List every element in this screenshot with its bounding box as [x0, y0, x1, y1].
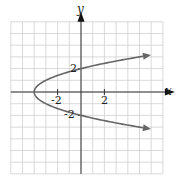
x-tick-2: 2 [101, 94, 108, 107]
y-axis-label: y [77, 2, 84, 16]
parabola-graph [0, 0, 179, 185]
grid [11, 22, 163, 174]
y-tick-2: 2 [70, 62, 77, 75]
x-tick-neg2: -2 [51, 94, 62, 107]
y-tick-neg2: -2 [64, 108, 75, 121]
x-axis-label: x [165, 84, 172, 98]
